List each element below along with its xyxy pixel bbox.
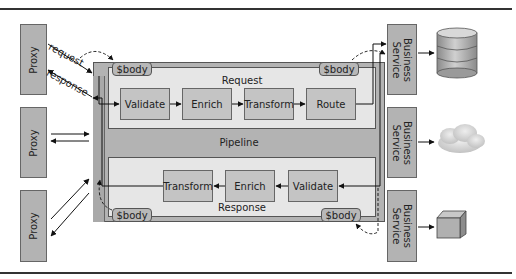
proxy-label: Proxy: [28, 212, 39, 239]
pipeline-label: Pipeline: [94, 137, 384, 148]
request-stage-validate: Validate: [120, 88, 170, 120]
proxy-box-1: Proxy: [20, 24, 47, 95]
business-service-box-1: BusinessService: [387, 24, 417, 95]
top-rule: [0, 8, 512, 10]
business-service-label: BusinessService: [391, 120, 413, 164]
request-stage-transform: Transform: [244, 88, 294, 120]
request-body-left: $body: [112, 62, 152, 76]
request-lane-label: Request: [109, 75, 375, 86]
response-body-left: $body: [112, 208, 152, 222]
response-stage-enrich: Enrich: [225, 170, 275, 202]
proxy-box-2: Proxy: [20, 107, 47, 178]
response-stage-transform: Transform: [163, 170, 213, 202]
response-label: response: [45, 67, 90, 98]
database-icon: [437, 28, 477, 78]
bottom-rule: [0, 272, 512, 274]
cloud-icon: [438, 124, 485, 153]
business-service-label: BusinessService: [391, 204, 413, 248]
request-label: request: [47, 41, 86, 69]
business-service-box-2: BusinessService: [387, 107, 417, 178]
proxy-box-3: Proxy: [20, 190, 47, 262]
proxy-label: Proxy: [28, 129, 39, 156]
response-stage-validate: Validate: [288, 170, 338, 202]
cube-icon: [437, 211, 466, 238]
request-stage-route: Route: [306, 88, 356, 120]
business-service-box-3: BusinessService: [387, 190, 417, 262]
response-body-right: $body: [321, 208, 361, 222]
request-stage-enrich: Enrich: [182, 88, 232, 120]
proxy-label: Proxy: [28, 46, 39, 73]
request-body-right: $body: [319, 62, 359, 76]
business-service-label: BusinessService: [391, 37, 413, 81]
pipeline-channel: [93, 76, 105, 222]
